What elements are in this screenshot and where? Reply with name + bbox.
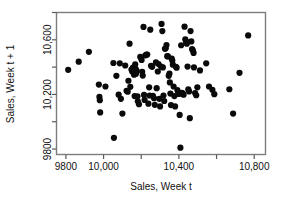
data-point bbox=[160, 92, 166, 98]
data-point bbox=[76, 59, 82, 65]
data-point bbox=[97, 109, 103, 115]
data-point bbox=[152, 102, 158, 108]
data-point bbox=[190, 50, 196, 56]
data-point bbox=[117, 60, 123, 66]
data-point bbox=[211, 91, 217, 97]
data-point bbox=[178, 42, 184, 48]
data-point bbox=[65, 67, 71, 73]
x-tick-label: 9800 bbox=[55, 161, 78, 172]
data-point bbox=[86, 49, 92, 55]
data-point bbox=[177, 112, 183, 118]
data-point bbox=[230, 110, 236, 116]
data-point bbox=[161, 98, 167, 104]
data-point bbox=[197, 67, 203, 73]
data-point bbox=[236, 70, 242, 76]
data-point bbox=[97, 97, 103, 103]
y-axis-tick-labels: 980010,20010,600 bbox=[42, 24, 53, 160]
data-point bbox=[193, 92, 199, 98]
data-point bbox=[158, 21, 164, 27]
data-point bbox=[127, 84, 133, 90]
y-tick-label: 10,600 bbox=[42, 24, 53, 55]
data-point bbox=[226, 86, 232, 92]
data-point bbox=[166, 71, 172, 77]
data-point bbox=[203, 60, 209, 66]
data-points bbox=[65, 21, 251, 151]
data-point bbox=[151, 95, 157, 101]
data-point bbox=[144, 51, 150, 57]
data-point bbox=[177, 145, 183, 151]
data-point bbox=[96, 81, 102, 87]
data-point bbox=[111, 135, 117, 141]
data-point bbox=[110, 60, 116, 66]
data-point bbox=[186, 88, 192, 94]
data-point bbox=[134, 68, 140, 74]
data-point bbox=[181, 24, 187, 30]
data-point bbox=[122, 62, 128, 68]
data-point bbox=[188, 38, 194, 44]
data-point bbox=[140, 24, 146, 30]
x-tick-label: 10,800 bbox=[239, 161, 270, 172]
data-point bbox=[146, 84, 152, 90]
data-point bbox=[145, 101, 151, 107]
scatter-plot-figure: 980010,00010,40010,800 980010,20010,600 … bbox=[0, 0, 282, 197]
y-axis-title: Sales, Week t + 1 bbox=[5, 44, 16, 123]
data-point bbox=[113, 73, 119, 79]
x-axis-tick-labels: 980010,00010,40010,800 bbox=[55, 161, 270, 172]
data-point bbox=[245, 32, 251, 38]
data-point bbox=[136, 101, 142, 107]
data-point bbox=[187, 115, 193, 121]
data-point bbox=[157, 103, 163, 109]
data-point bbox=[172, 103, 178, 109]
data-point bbox=[119, 110, 125, 116]
data-point bbox=[180, 92, 186, 98]
data-point bbox=[140, 72, 146, 78]
x-axis-title: Sales, Week t bbox=[130, 181, 192, 192]
data-point bbox=[187, 28, 193, 34]
data-point bbox=[194, 84, 200, 90]
data-point bbox=[126, 41, 132, 47]
plot-canvas: 980010,00010,40010,800 980010,20010,600 … bbox=[0, 0, 282, 197]
x-tick-label: 10,400 bbox=[164, 161, 195, 172]
data-point bbox=[125, 78, 131, 84]
data-point bbox=[118, 96, 124, 102]
data-point bbox=[184, 63, 190, 69]
data-point bbox=[159, 28, 165, 34]
y-tick-label: 10,200 bbox=[42, 79, 53, 110]
x-tick-label: 10,000 bbox=[88, 161, 119, 172]
data-point bbox=[147, 27, 153, 33]
data-point bbox=[154, 85, 160, 91]
data-point bbox=[160, 64, 166, 70]
data-point bbox=[191, 64, 197, 70]
data-point bbox=[174, 65, 180, 71]
data-point bbox=[163, 42, 169, 48]
data-point bbox=[102, 83, 108, 89]
y-tick-label: 9800 bbox=[42, 137, 53, 160]
